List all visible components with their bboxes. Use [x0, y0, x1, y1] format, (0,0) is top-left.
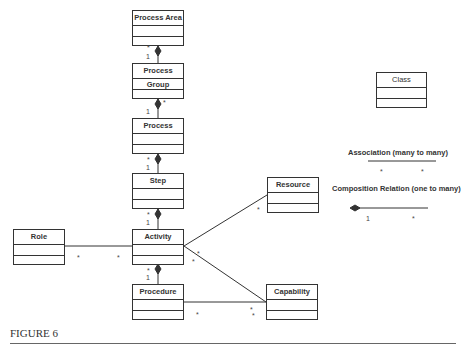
operations-compartment [14, 256, 64, 266]
class-title: Step [133, 174, 183, 189]
attributes-compartment [14, 245, 64, 256]
class-title: Resource [268, 178, 318, 193]
mult-label: 1 [146, 53, 150, 60]
class-activity[interactable]: Activity [132, 229, 184, 265]
mult-label: * [163, 99, 166, 106]
class-title: Capability [267, 285, 317, 300]
attributes-compartment [267, 300, 317, 311]
class-procedure[interactable]: Procedure [132, 284, 184, 320]
attributes-compartment [133, 245, 183, 256]
legend-mult: * [412, 215, 415, 222]
operations-compartment [133, 311, 183, 321]
caption-rule [10, 343, 456, 344]
attributes-compartment [133, 134, 183, 145]
mult-label: * [252, 312, 255, 319]
legend-mult: * [421, 168, 424, 175]
mult-label: * [196, 311, 199, 318]
operations-compartment [133, 145, 183, 155]
attributes-compartment [133, 300, 183, 311]
class-title: Activity [133, 230, 183, 245]
mult-label: * [197, 250, 200, 257]
class-title: Class [377, 73, 426, 88]
class-process-area[interactable]: Process Area [132, 10, 184, 46]
operations-compartment [133, 37, 183, 47]
class-resource[interactable]: Resource [267, 177, 319, 213]
class-title: Process [133, 119, 183, 134]
attributes-compartment [377, 88, 426, 99]
mult-label: * [147, 44, 150, 51]
mult-label: * [147, 156, 150, 163]
operations-compartment [377, 99, 426, 109]
operations-compartment [133, 200, 183, 210]
attributes-compartment [133, 189, 183, 200]
mult-label: 1 [146, 164, 150, 171]
mult-label: * [147, 267, 150, 274]
class-title: Process Group [133, 64, 183, 79]
class-process[interactable]: Process [132, 118, 184, 154]
class-title: Role [14, 230, 64, 245]
mult-label: * [147, 211, 150, 218]
mult-label: 1 [146, 108, 150, 115]
mult-label: * [117, 254, 120, 261]
operations-compartment [268, 204, 318, 214]
class-role[interactable]: Role [13, 229, 65, 265]
attributes-compartment [133, 26, 183, 37]
attributes-compartment [268, 193, 318, 204]
mult-label: 1 [146, 274, 150, 281]
operations-compartment [133, 256, 183, 266]
mult-label: * [77, 254, 80, 261]
class-process-group[interactable]: Process Group [132, 63, 184, 99]
legend-mult: * [380, 168, 383, 175]
connector-lines [0, 0, 466, 348]
class-title: Procedure [133, 285, 183, 300]
mult-label: 1 [146, 219, 150, 226]
legend-association-label: Association (many to many) [348, 148, 448, 157]
operations-compartment [267, 311, 317, 321]
mult-label: * [192, 258, 195, 265]
class-step[interactable]: Step [132, 173, 184, 209]
legend-class-box: Class [376, 72, 427, 108]
class-capability[interactable]: Capability [266, 284, 318, 320]
legend-mult: 1 [366, 215, 370, 222]
mult-label: * [257, 206, 260, 213]
class-title: Process Area [133, 11, 183, 26]
figure-caption: FIGURE 6 [10, 327, 58, 339]
legend-composition-label: Composition Relation (one to many) [332, 184, 461, 193]
